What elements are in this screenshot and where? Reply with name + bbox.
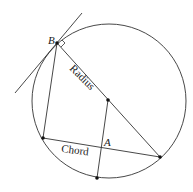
label-b: B xyxy=(48,34,55,46)
label-chord: Chord xyxy=(61,142,90,157)
circle-diagram: B A Radius Chord xyxy=(0,0,193,192)
label-radius: Radius xyxy=(68,62,98,92)
right-angle-marker xyxy=(61,40,65,47)
right-dot xyxy=(158,155,162,159)
left-dot xyxy=(41,136,45,140)
bottom-dot xyxy=(95,176,99,180)
label-a: A xyxy=(103,136,111,148)
center-dot xyxy=(106,98,110,102)
point-b-dot xyxy=(55,41,59,45)
tangent-line xyxy=(15,13,82,93)
